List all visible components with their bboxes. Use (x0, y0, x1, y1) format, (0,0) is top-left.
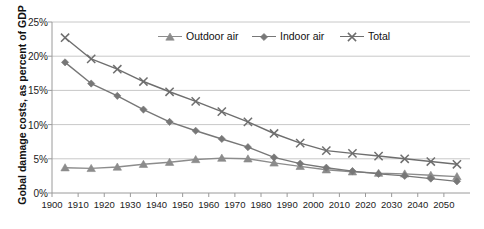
x-tick-label-1900: 1900 (41, 199, 62, 210)
x-tick-label-1940: 1940 (146, 199, 167, 210)
diamond-marker-icon (270, 154, 277, 161)
legend-line-swatch (158, 36, 182, 37)
series-line (65, 158, 457, 176)
x-tick-label-1930: 1930 (120, 199, 141, 210)
diamond-marker-icon (192, 127, 199, 134)
x-tick-label-2040: 2040 (407, 199, 428, 210)
x-tick-label-2030: 2030 (381, 199, 402, 210)
legend-line-swatch (340, 36, 364, 37)
series-total (61, 34, 461, 169)
x-tick-label-2000: 2000 (303, 199, 324, 210)
legend-line-swatch (252, 36, 276, 37)
x-tick-label-2050: 2050 (433, 199, 454, 210)
series-line (65, 38, 457, 165)
legend-label: Total (368, 30, 390, 42)
legend-item-total[interactable]: Total (340, 30, 390, 42)
x-tick-label-1920: 1920 (94, 199, 115, 210)
diamond-marker-icon (114, 92, 121, 99)
x-tick-label-2020: 2020 (355, 199, 376, 210)
legend-item-outdoor-air[interactable]: Outdoor air (158, 30, 239, 42)
x-tick-label-1990: 1990 (277, 199, 298, 210)
x-tick-label-1980: 1980 (250, 199, 271, 210)
diamond-marker-icon (258, 31, 270, 43)
cross-marker-icon (346, 31, 358, 43)
series-line (65, 62, 457, 181)
legend-label: Indoor air (280, 30, 324, 42)
legend-item-indoor-air[interactable]: Indoor air (252, 30, 324, 42)
triangle-marker-icon (166, 33, 174, 40)
chart-container: Gobal damage costs, as percent of GDP 0%… (0, 0, 484, 229)
x-tick-label-1950: 1950 (172, 199, 193, 210)
diamond-marker-icon (140, 106, 147, 113)
x-tick-label-1960: 1960 (198, 199, 219, 210)
chart-plot-area (0, 0, 484, 229)
triangle-marker-icon (164, 31, 176, 43)
x-tick-label-1970: 1970 (224, 199, 245, 210)
legend-label: Outdoor air (186, 30, 239, 42)
diamond-marker-icon (218, 135, 225, 142)
cropped-caption-artifact (0, 217, 484, 229)
x-tick-label-1910: 1910 (68, 199, 89, 210)
diamond-marker-icon (260, 33, 267, 40)
x-tick-label-2010: 2010 (329, 199, 350, 210)
diamond-marker-icon (244, 144, 251, 151)
